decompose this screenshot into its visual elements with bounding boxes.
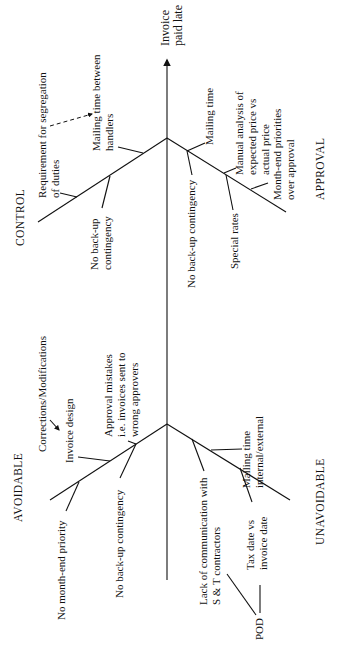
cause-approval-mistakes-line-2: i.e. invoices sent to [115, 352, 127, 437]
effect-head: Invoice paid late [158, 5, 185, 46]
cause-approval-mistakes-line-1: Approval mistakes [102, 354, 114, 437]
cause-tax-date-line-2: invoice date [257, 516, 269, 570]
cause-special-rates: Special rates [228, 213, 240, 269]
cause-invoice-design: Invoice design [63, 398, 75, 463]
cause-approval-mistakes-line-3: wrong approvers [128, 363, 140, 437]
fishbone-diagram: Invoice paid late CONTROL Requirement fo… [0, 0, 338, 658]
cause-lack-comm-line-2: S & T contractors [210, 527, 222, 605]
cause-lack-comm-line-1: Lack of communication with [197, 477, 209, 605]
cause-control-backup-line-1: No back-up [88, 218, 100, 270]
branch-control: CONTROL Requirement for segregation of d… [14, 54, 167, 270]
category-control: CONTROL [14, 189, 26, 246]
dashed-arrow-icon [50, 114, 92, 126]
cause-mailing-internal-line-1: Mailing time [240, 431, 252, 488]
cause-approval-backup: No back-up contingency [185, 179, 197, 288]
cause-tax-date-line-1: Tax date vs [244, 520, 256, 570]
cause-pod: POD [253, 618, 265, 640]
category-unavoidable: UNAVOIDABLE [314, 458, 326, 545]
cause-month-end-line-2: over approval [284, 139, 296, 200]
cause-corrections: Corrections/Modifications [36, 336, 48, 452]
cause-manual-analysis-line-2: expected price vs [246, 99, 258, 175]
effect-line-1: Invoice [158, 10, 172, 46]
effect-line-2: paid late [171, 5, 185, 46]
cause-month-end-line-1: Month-end priorities [271, 109, 283, 200]
cause-manual-analysis-line-3: actual price [259, 124, 271, 175]
cause-mailing-time: Mailing time [203, 88, 215, 145]
cause-mailing-internal-line-2: internal/external [253, 416, 265, 488]
category-avoidable: AVOIDABLE [12, 453, 24, 522]
branch-approval: APPROVAL Mailing time No back-up conting… [167, 88, 326, 288]
cause-mailing-between-line-1: Mailing time between [90, 54, 102, 151]
cause-segregation-line-2: of duties [49, 160, 61, 198]
cause-segregation-line-1: Requirement for segregation [36, 72, 48, 198]
branch-unavoidable: UNAVOIDABLE Lack of communication with S… [167, 416, 326, 640]
branch-avoidable: AVOIDABLE Corrections/Modifications Invo… [12, 336, 167, 620]
cause-no-month-end: No month-end priority [55, 520, 67, 620]
cause-manual-analysis-line-1: Manual analysis of [233, 91, 245, 175]
corrections-arrow-icon [50, 420, 59, 430]
cause-mailing-between-line-2: handlers [103, 114, 115, 151]
category-approval: APPROVAL [314, 138, 326, 200]
cause-avoidable-backup: No back-up contingency [113, 489, 125, 598]
cause-control-backup-line-2: contingency [101, 216, 113, 270]
